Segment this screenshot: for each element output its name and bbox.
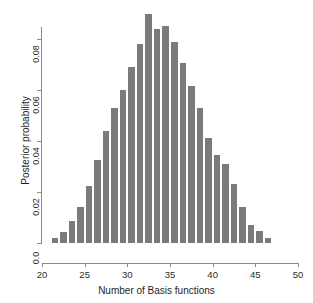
histogram-bar (238, 207, 247, 243)
histogram-bar (144, 14, 153, 243)
x-tick-label: 30 (122, 269, 133, 280)
histogram-bar (247, 225, 256, 243)
x-tick-label: 50 (293, 269, 304, 280)
y-tick-label: 0.08 (31, 39, 41, 69)
plot-area: 202530354045500.00.020.040.060.08 (0, 0, 313, 303)
histogram-bar (196, 108, 205, 243)
histogram-bar (170, 42, 179, 243)
histogram-bar (264, 238, 273, 243)
histogram-bar (213, 155, 222, 243)
histogram-bar (93, 160, 102, 243)
histogram-bar (51, 238, 60, 243)
x-axis-title: Number of Basis functions (0, 285, 313, 296)
histogram-figure: 202530354045500.00.020.040.060.08 Poster… (0, 0, 313, 303)
y-tick-label: 0.04 (31, 141, 41, 171)
histogram-bar (110, 108, 119, 243)
histogram-bar (179, 63, 188, 243)
histogram-bar (204, 138, 213, 243)
histogram-bar (221, 164, 230, 243)
histogram-bar (136, 44, 145, 243)
histogram-bar (59, 232, 68, 243)
histogram-bar (127, 67, 136, 243)
x-tick-label: 35 (165, 269, 176, 280)
histogram-bar (161, 26, 170, 243)
y-axis-line (41, 27, 42, 244)
y-tick-label: 0.02 (31, 192, 41, 222)
histogram-bar (187, 86, 196, 243)
histogram-bar (153, 29, 162, 243)
histogram-bar (255, 231, 264, 243)
histogram-bar (85, 186, 94, 243)
x-axis-line (42, 263, 299, 264)
y-tick-label: 0.0 (31, 243, 41, 273)
y-axis-title: Posterior probability (20, 51, 31, 231)
histogram-bar (230, 184, 239, 243)
x-tick-label: 40 (207, 269, 218, 280)
y-tick-label: 0.06 (31, 90, 41, 120)
x-tick-label: 25 (79, 269, 90, 280)
x-tick-label: 45 (250, 269, 261, 280)
histogram-bar (119, 90, 128, 243)
histogram-bar (76, 207, 85, 243)
histogram-bar (68, 221, 77, 243)
histogram-bar (102, 131, 111, 243)
